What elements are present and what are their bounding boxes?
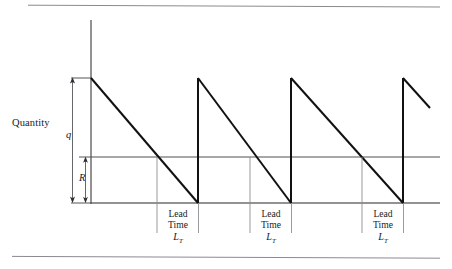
lead-time-symbol: LT [152,231,204,245]
lead-time-label-line1: Lead [357,208,409,219]
order-quantity-label: q [66,129,71,140]
inventory-depletion-segment-3 [291,78,403,203]
lead-time-label-line2: Time [245,219,297,230]
top-rule [28,5,440,7]
lead-time-symbol: LT [245,231,297,245]
lead-time-label-line1: Lead [152,208,204,219]
bottom-rule [12,256,440,258]
y-axis-label: Quantity [12,117,50,128]
lead-time-annotation-3: Lead Time LT [357,208,409,244]
lead-time-label-line2: Time [152,219,204,230]
reorder-level-label: R [79,172,85,183]
inventory-depletion-segment-4 [403,78,430,108]
lead-time-annotation-1: Lead Time LT [152,208,204,244]
lead-time-label-line1: Lead [245,208,297,219]
lead-time-label-line2: Time [357,219,409,230]
inventory-depletion-segment-1 [91,78,198,203]
inventory-sawtooth-figure: Quantity q R Lead Time LT Lead Time LT L… [0,0,452,269]
inventory-depletion-segment-2 [198,78,291,203]
lead-time-symbol: LT [357,231,409,245]
lead-time-annotation-2: Lead Time LT [245,208,297,244]
